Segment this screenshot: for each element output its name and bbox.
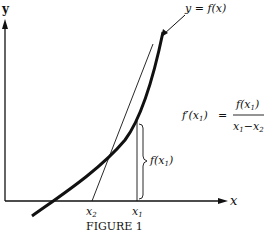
x2-label: x2	[86, 205, 97, 219]
curve-label: y = f(x)	[184, 2, 226, 15]
tangent-line	[92, 44, 153, 201]
formula-numerator: f(x1)	[235, 98, 259, 112]
formula-denominator: x1−x2	[233, 120, 264, 134]
x1-label: x1	[132, 205, 143, 219]
y-axis-arrowhead-icon	[2, 19, 8, 29]
newton-method-figure: y x f(x1) y = f(x) x2 x1 f′(x1) = f(x1)	[0, 0, 266, 233]
x-axis-label: x	[230, 193, 238, 208]
brace-label: f(x1)	[149, 154, 173, 168]
y-axis-label: y	[1, 2, 10, 16]
formula-equals: =	[218, 109, 227, 122]
x-axis: x	[5, 193, 238, 208]
y-axis: y	[1, 2, 10, 201]
curve-pointer-arrowhead-icon	[161, 29, 168, 37]
formula-lhs: f′(x1)	[181, 109, 208, 123]
derivative-formula: f′(x1) = f(x1) x1−x2	[181, 98, 264, 134]
curve-pointer-line	[164, 15, 185, 34]
curly-brace-icon	[139, 124, 147, 199]
x-axis-arrowhead-icon	[218, 198, 228, 204]
figure-caption: FIGURE 1	[86, 220, 143, 233]
